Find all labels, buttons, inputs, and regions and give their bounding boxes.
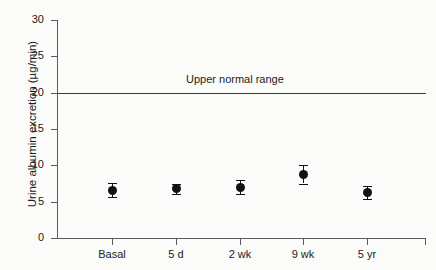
y-tick-30 [51, 20, 57, 21]
x-tick-2 [240, 239, 241, 245]
x-tick-1 [176, 239, 177, 245]
y-tick-5 [51, 202, 57, 203]
x-tick-3 [303, 239, 304, 245]
error-bar-cap-lower [363, 199, 372, 200]
x-axis-end-tick [425, 239, 426, 245]
y-tick-10 [51, 165, 57, 166]
y-tick-25 [51, 56, 57, 57]
marker [299, 170, 308, 179]
x-tick-0 [112, 239, 113, 245]
error-bar-cap-lower [108, 197, 117, 198]
marker [363, 188, 372, 197]
y-tick-label-10: 10 [4, 159, 44, 170]
y-tick-label-25: 25 [4, 50, 44, 61]
x-tick-label-2-wk: 2 wk [210, 248, 270, 260]
error-bar-cap-lower [236, 194, 245, 195]
chart-figure: 051015202530 Basal5 d2 wk9 wk5 yr Upper … [0, 0, 436, 270]
error-bar-cap-upper [299, 165, 308, 166]
x-tick-label-5-yr: 5 yr [337, 248, 397, 260]
x-tick-4 [367, 239, 368, 245]
error-bar-cap-lower [299, 184, 308, 185]
y-axis-line [57, 20, 58, 239]
y-tick-label-5: 5 [4, 196, 44, 207]
error-bar-cap-lower [172, 194, 181, 195]
error-bar-cap-upper [108, 183, 117, 184]
y-tick-0 [51, 238, 57, 239]
x-tick-label-5-d: 5 d [146, 248, 206, 260]
marker [172, 184, 181, 193]
plot-area: 051015202530 Basal5 d2 wk9 wk5 yr Upper … [0, 0, 436, 270]
marker [236, 183, 245, 192]
y-axis-title: Urine albumin excretion (µg/min) [26, 9, 38, 239]
marker [108, 186, 117, 195]
y-tick-label-15: 15 [4, 123, 44, 134]
y-tick-label-20: 20 [4, 87, 44, 98]
y-tick-label-0: 0 [4, 232, 44, 243]
upper-normal-range-label: Upper normal range [186, 73, 284, 85]
error-bar-cap-upper [363, 186, 372, 187]
error-bar-cap-upper [236, 180, 245, 181]
y-tick-label-30: 30 [4, 14, 44, 25]
x-tick-label-9-wk: 9 wk [273, 248, 333, 260]
upper-normal-range-line [57, 93, 426, 94]
y-tick-15 [51, 129, 57, 130]
x-tick-label-basal: Basal [82, 248, 142, 260]
